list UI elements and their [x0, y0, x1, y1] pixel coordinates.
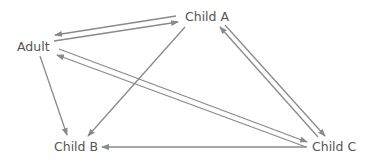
- node-child-c: Child C: [312, 141, 356, 154]
- node-child-b: Child B: [54, 141, 98, 154]
- arrow-adult-to-childC: [59, 49, 307, 142]
- arrow-childC-to-adult: [57, 55, 306, 147]
- node-child-a: Child A: [185, 11, 229, 24]
- arrow-childA-to-childC: [225, 25, 325, 136]
- edges-group: [40, 16, 325, 147]
- arrow-adult-to-childB: [40, 56, 67, 135]
- arrow-childA-to-childB: [88, 27, 185, 136]
- node-adult: Adult: [17, 41, 50, 54]
